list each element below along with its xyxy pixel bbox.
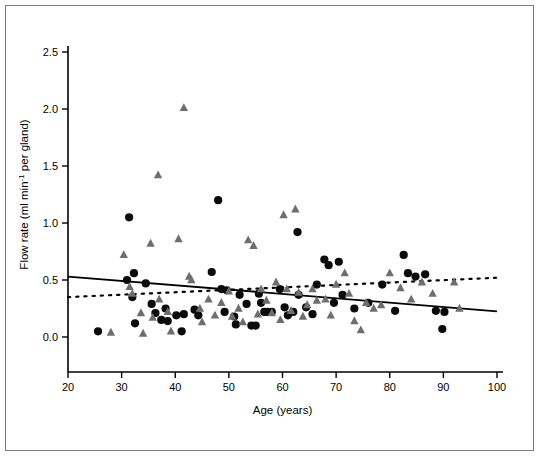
data-point-circle <box>94 327 102 335</box>
data-point-circle <box>325 261 333 269</box>
data-point-circle <box>164 317 172 325</box>
data-point-circle <box>438 325 446 333</box>
data-point-circle <box>335 258 343 266</box>
data-point-circle <box>350 304 358 312</box>
data-point-triangle <box>137 308 145 316</box>
data-point-triangle <box>139 329 147 337</box>
data-point-triangle <box>341 268 349 276</box>
data-point-circle <box>148 300 156 308</box>
data-point-circle <box>214 196 222 204</box>
x-axis-tick-label: 90 <box>437 381 449 393</box>
data-point-circle <box>432 307 440 315</box>
figure-container: 0.00.51.01.52.02.52030405060708090100Age… <box>0 0 539 456</box>
data-point-triangle <box>357 325 365 333</box>
y-axis-tick-label: 1.5 <box>43 160 58 172</box>
data-point-circle <box>125 213 133 221</box>
y-axis-tick-label: 2.5 <box>43 46 58 58</box>
data-point-circle <box>276 285 284 293</box>
data-point-triangle <box>327 311 335 319</box>
data-point-circle <box>178 327 186 335</box>
data-point-triangle <box>418 278 426 286</box>
data-point-circle <box>236 291 244 299</box>
data-point-triangle <box>396 283 404 291</box>
data-point-circle <box>440 308 448 316</box>
data-point-triangle <box>386 268 394 276</box>
scatter-plot: 0.00.51.01.52.02.52030405060708090100Age… <box>0 0 539 456</box>
data-point-circle <box>180 310 188 318</box>
data-point-triangle <box>167 327 175 335</box>
data-point-triangle <box>428 289 436 297</box>
data-point-triangle <box>276 315 284 323</box>
data-point-triangle <box>234 304 242 312</box>
data-point-circle <box>172 311 180 319</box>
y-axis-title: Flow rate (ml min-1 per gland) <box>17 119 30 269</box>
axis-labels-group: 0.00.51.01.52.02.52030405060708090100Age… <box>17 46 506 416</box>
data-point-triangle <box>407 295 415 303</box>
data-point-triangle <box>350 316 358 324</box>
data-point-circle <box>293 228 301 236</box>
data-point-circle <box>242 300 250 308</box>
data-point-triangle <box>272 278 280 286</box>
data-point-triangle <box>154 170 162 178</box>
data-point-circle <box>252 322 260 330</box>
x-axis-tick-label: 80 <box>384 381 396 393</box>
data-point-circle <box>220 308 228 316</box>
y-axis-tick-label: 0.0 <box>43 331 58 343</box>
data-point-circle <box>232 320 240 328</box>
data-point-circle <box>404 269 412 277</box>
data-point-triangle <box>146 239 154 247</box>
x-axis-tick-label: 50 <box>223 381 235 393</box>
data-point-triangle <box>174 234 182 242</box>
data-point-circle <box>308 310 316 318</box>
data-point-circle <box>421 270 429 278</box>
y-axis-tick-label: 1.0 <box>43 217 58 229</box>
data-point-triangle <box>120 250 128 258</box>
data-point-triangle <box>180 103 188 111</box>
data-point-triangle <box>211 311 219 319</box>
data-point-circle <box>400 251 408 259</box>
data-point-circle <box>208 268 216 276</box>
data-point-triangle <box>239 317 247 325</box>
data-point-triangle <box>294 288 302 296</box>
data-point-circle <box>142 279 150 287</box>
data-point-circle <box>338 291 346 299</box>
x-axis-tick-label: 60 <box>276 381 288 393</box>
data-point-triangle <box>244 235 252 243</box>
axes-group <box>62 46 503 378</box>
data-point-triangle <box>299 312 307 320</box>
y-axis-tick-label: 0.5 <box>43 274 58 286</box>
x-axis-tick-label: 20 <box>62 381 74 393</box>
data-point-circle <box>131 319 139 327</box>
x-axis-tick-label: 30 <box>116 381 128 393</box>
x-axis-tick-label: 40 <box>169 381 181 393</box>
data-points-group <box>94 103 464 337</box>
data-point-triangle <box>204 295 212 303</box>
data-point-triangle <box>279 210 287 218</box>
data-point-triangle <box>283 284 291 292</box>
data-point-circle <box>391 307 399 315</box>
data-point-triangle <box>217 298 225 306</box>
data-point-circle <box>411 272 419 280</box>
data-point-circle <box>130 269 138 277</box>
data-point-circle <box>330 299 338 307</box>
x-axis-tick-label: 100 <box>488 381 506 393</box>
data-point-triangle <box>291 205 299 213</box>
y-axis-tick-label: 2.0 <box>43 103 58 115</box>
data-point-triangle <box>155 295 163 303</box>
data-point-circle <box>194 311 202 319</box>
data-point-triangle <box>128 289 136 297</box>
data-point-circle <box>378 280 386 288</box>
data-point-triangle <box>107 328 115 336</box>
x-axis-tick-label: 70 <box>330 381 342 393</box>
x-axis-title: Age (years) <box>253 404 313 416</box>
data-point-triangle <box>450 278 458 286</box>
data-point-circle <box>281 303 289 311</box>
